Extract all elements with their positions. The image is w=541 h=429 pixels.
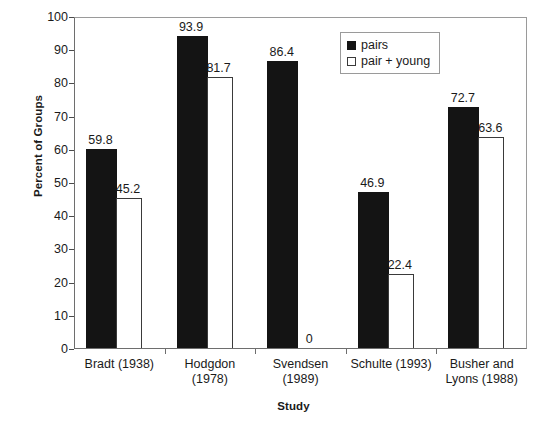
y-tick-label: 0 — [24, 343, 68, 355]
y-tick-label: 90 — [24, 44, 68, 56]
bar-value-label: 72.7 — [438, 92, 488, 105]
x-tick-mark — [165, 349, 166, 354]
bar-value-label: 63.6 — [465, 122, 515, 135]
x-category-label: Busher and Lyons (1988) — [430, 357, 533, 387]
legend-item: pairs — [347, 37, 430, 53]
bar-pair-young — [207, 77, 233, 348]
bar-pair-young — [388, 274, 414, 348]
legend: pairspair + young — [340, 32, 440, 74]
bar-pairs — [448, 107, 479, 348]
bar-value-label: 93.9 — [166, 21, 216, 34]
legend-swatch-filled-icon — [347, 41, 356, 50]
x-tick-mark — [346, 349, 347, 354]
x-axis-title-text: Study — [277, 400, 309, 412]
x-category-label: Svendsen (1989) — [249, 357, 352, 387]
bar-pairs — [267, 61, 298, 348]
bar-value-label: 45.2 — [103, 183, 153, 196]
y-tick-label: 30 — [24, 243, 68, 255]
y-tick-label: 20 — [24, 277, 68, 289]
bar-value-label: 46.9 — [347, 177, 397, 190]
legend-label: pairs — [361, 39, 388, 52]
bar-value-label: 0 — [284, 333, 334, 346]
x-axis-title: Study — [0, 400, 541, 412]
x-tick-mark — [255, 349, 256, 354]
y-tick-label: 80 — [24, 77, 68, 89]
bar-pairs — [177, 36, 208, 348]
y-tick-label: 100 — [24, 11, 68, 23]
bar-pairs — [86, 149, 117, 348]
y-tick-label: 70 — [24, 111, 68, 123]
bar-pair-young — [116, 198, 142, 348]
bar-pair-young — [478, 137, 504, 348]
y-tick-label: 60 — [24, 144, 68, 156]
y-tick-mark — [69, 349, 74, 350]
legend-swatch-open-icon — [347, 57, 356, 66]
bar-value-label: 86.4 — [257, 46, 307, 59]
bar-value-label: 59.8 — [76, 134, 126, 147]
bar-value-label: 22.4 — [375, 259, 425, 272]
legend-label: pair + young — [361, 55, 430, 68]
bar-value-label: 81.7 — [194, 62, 244, 75]
bar-chart: Percent of Groups 1009080706050403020100… — [0, 0, 541, 429]
y-tick-label: 50 — [24, 177, 68, 189]
x-tick-mark — [436, 349, 437, 354]
legend-item: pair + young — [347, 53, 430, 69]
x-category-label: Bradt (1938) — [68, 357, 171, 372]
y-tick-label: 10 — [24, 310, 68, 322]
x-category-label: Schulte (1993) — [340, 357, 443, 372]
y-tick-label: 40 — [24, 210, 68, 222]
x-category-label: Hodgdon (1978) — [159, 357, 262, 387]
